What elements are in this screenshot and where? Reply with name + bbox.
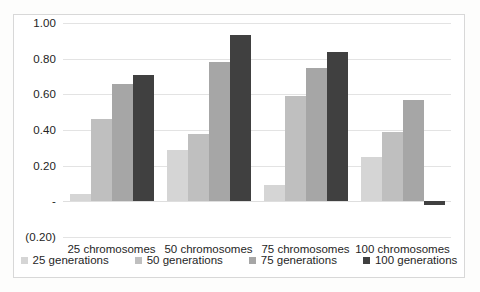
- bar-slot: [382, 23, 403, 237]
- bar-slot: [70, 23, 91, 237]
- bar[interactable]: [133, 75, 154, 202]
- y-axis-tick-label: 1.00: [33, 17, 56, 29]
- legend-item[interactable]: 50 generations: [135, 254, 223, 266]
- bar-group-bars: [160, 23, 257, 237]
- bar[interactable]: [209, 62, 230, 201]
- bar-group-bars: [257, 23, 354, 237]
- legend-label: 75 generations: [261, 254, 337, 266]
- plot-area: 1.000.800.600.400.20-(0.20) 25 chromosom…: [63, 23, 451, 237]
- y-axis-tick-label: 0.40: [33, 124, 56, 136]
- bar-group: 50 chromosomes: [160, 23, 257, 237]
- bar-slot: [188, 23, 209, 237]
- y-axis-tick-label: 0.80: [33, 53, 56, 65]
- legend-label: 50 generations: [147, 254, 223, 266]
- bar[interactable]: [112, 84, 133, 202]
- y-axis-tick-label: 0.20: [33, 160, 56, 172]
- bar-slot: [133, 23, 154, 237]
- y-axis-tick-label: -: [52, 195, 56, 207]
- bar-slot: [403, 23, 424, 237]
- bar-groups: 25 chromosomes50 chromosomes75 chromosom…: [63, 23, 451, 237]
- bar-slot: [209, 23, 230, 237]
- bar-slot: [306, 23, 327, 237]
- scanned-page: 1.000.800.600.400.20-(0.20) 25 chromosom…: [0, 0, 480, 292]
- bar-slot: [112, 23, 133, 237]
- legend-swatch-icon: [249, 257, 256, 264]
- legend-label: 100 generations: [375, 254, 457, 266]
- legend-swatch-icon: [363, 257, 370, 264]
- y-axis-tick-label: (0.20): [25, 231, 56, 243]
- bar-slot: [361, 23, 382, 237]
- bar-group: 100 chromosomes: [354, 23, 451, 237]
- legend-item[interactable]: 100 generations: [363, 254, 457, 266]
- legend-swatch-icon: [21, 257, 28, 264]
- bar-slot: [264, 23, 285, 237]
- legend-label: 25 generations: [33, 254, 109, 266]
- bar[interactable]: [382, 132, 403, 202]
- bar[interactable]: [306, 68, 327, 202]
- bar[interactable]: [327, 52, 348, 202]
- y-axis-tick-label: 0.60: [33, 88, 56, 100]
- bar[interactable]: [403, 100, 424, 202]
- legend-swatch-icon: [135, 257, 142, 264]
- bar[interactable]: [91, 119, 112, 201]
- bar-group: 75 chromosomes: [257, 23, 354, 237]
- bar[interactable]: [167, 150, 188, 202]
- bar-slot: [424, 23, 445, 237]
- bar[interactable]: [230, 35, 251, 201]
- bar-slot: [285, 23, 306, 237]
- bar-slot: [91, 23, 112, 237]
- legend-item[interactable]: 25 generations: [21, 254, 109, 266]
- bar-group-bars: [63, 23, 160, 237]
- legend-item[interactable]: 75 generations: [249, 254, 337, 266]
- chart-frame: 1.000.800.600.400.20-(0.20) 25 chromosom…: [13, 14, 465, 278]
- bar-group: 25 chromosomes: [63, 23, 160, 237]
- bar-slot: [167, 23, 188, 237]
- bar-group-bars: [354, 23, 451, 237]
- bar[interactable]: [361, 157, 382, 202]
- gridline: [63, 237, 451, 238]
- bar-slot: [327, 23, 348, 237]
- bar[interactable]: [264, 185, 285, 201]
- bar[interactable]: [188, 134, 209, 202]
- bar-slot: [230, 23, 251, 237]
- chart-legend: 25 generations50 generations75 generatio…: [14, 254, 464, 266]
- bar[interactable]: [424, 201, 445, 205]
- bar[interactable]: [285, 96, 306, 201]
- bar[interactable]: [70, 194, 91, 201]
